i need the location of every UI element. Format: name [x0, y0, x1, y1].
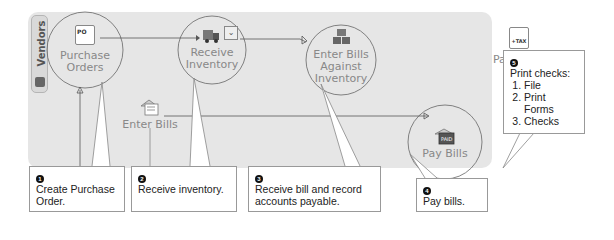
print-step: Checks [524, 115, 578, 127]
node-enter-bills-against-inventory[interactable]: Enter Bills Against Inventory [306, 28, 376, 85]
paid-envelope-icon: PAID [434, 127, 456, 145]
callout-text: Receive bill and record accounts payable… [255, 183, 362, 207]
node-enter-bills[interactable]: Enter Bills [120, 98, 180, 131]
callout-1: 1 Create Purchase Order. [29, 166, 125, 212]
step-number-badge: 4 [423, 187, 431, 195]
callout-2: 2 Receive inventory. [131, 166, 237, 212]
node-receive-inventory[interactable]: ⌄ Receive Inventory [182, 26, 242, 71]
callout-3: 3 Receive bill and record accounts payab… [248, 166, 381, 212]
callout-text: Pay bills. [423, 195, 465, 207]
chevron-down-icon[interactable]: ⌄ [224, 26, 238, 40]
print-step: Print Forms [524, 91, 578, 115]
step-number-badge: 5 [510, 59, 518, 67]
node-pay-bills[interactable]: PAID Pay Bills [415, 127, 475, 160]
bill-envelope-icon [140, 98, 160, 116]
truck-icon [202, 26, 222, 44]
po-form-icon: PO [75, 25, 95, 45]
tax-form-icon: +TAX [509, 27, 529, 49]
callout-text: Create Purchase Order. [36, 183, 115, 207]
callout-5: 5 Print checks: File Print Forms Checks [503, 50, 585, 134]
step-number-badge: 3 [255, 175, 263, 183]
node-purchase-orders[interactable]: PO Purchase Orders [55, 25, 115, 74]
svg-text:PAID: PAID [441, 136, 453, 142]
step-number-badge: 2 [138, 175, 146, 183]
boxes-icon [332, 28, 350, 46]
print-steps-list: File Print Forms Checks [510, 79, 578, 127]
print-step: File [524, 79, 578, 91]
callout-4: 4 Pay bills. [416, 178, 488, 212]
callout-text: Print checks: [510, 67, 570, 79]
callout-text: Receive inventory. [138, 183, 224, 195]
step-number-badge: 1 [36, 175, 44, 183]
